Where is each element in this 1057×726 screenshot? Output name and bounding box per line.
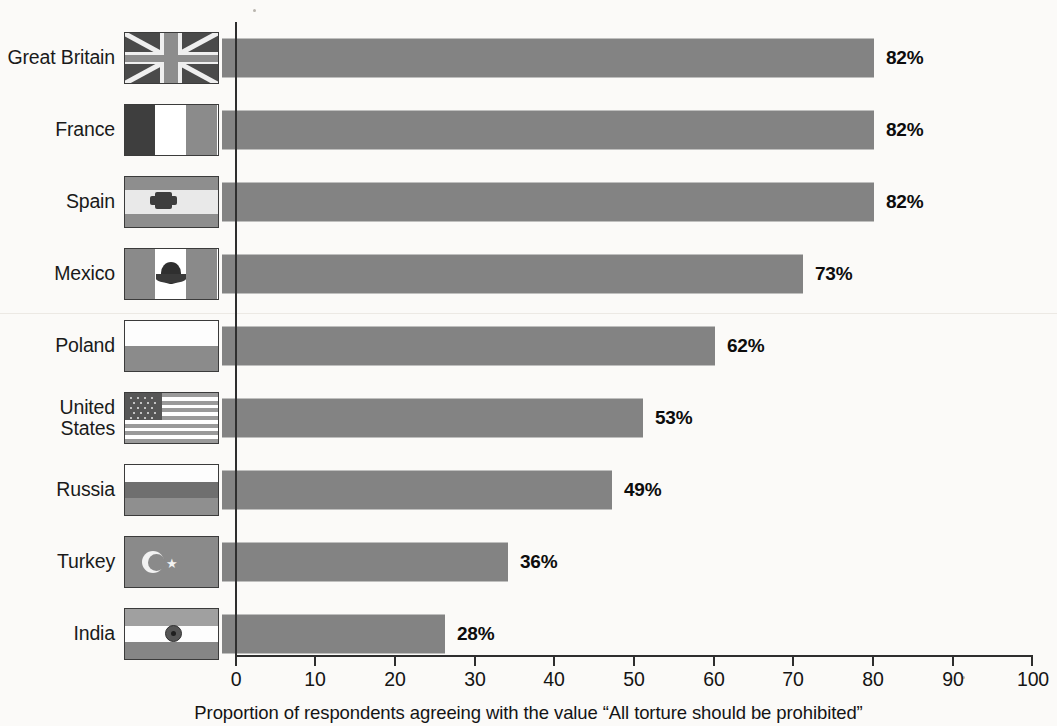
chart-rows: Great Britain 82% France	[0, 0, 1057, 655]
x-axis-tick-label: 70	[782, 668, 803, 691]
bar	[222, 543, 508, 582]
bar-value-label: 49%	[624, 479, 661, 501]
russia-flag	[124, 464, 219, 516]
bar	[222, 615, 445, 654]
united-states-flag	[124, 392, 219, 444]
category-label: Russia	[0, 479, 121, 500]
bar	[222, 183, 874, 222]
table-row: Poland 62%	[0, 309, 1057, 383]
x-axis-tick	[553, 655, 555, 666]
table-row: India 28%	[0, 597, 1057, 671]
bar	[222, 471, 612, 510]
flag-cell	[121, 320, 221, 372]
india-flag	[124, 608, 219, 660]
x-axis-tick	[952, 655, 954, 666]
x-axis-tick-label: 90	[942, 668, 963, 691]
category-label: Mexico	[0, 263, 121, 284]
flag-cell	[121, 32, 221, 84]
spain-coat-of-arms-icon	[155, 192, 172, 209]
x-axis-tick-label: 60	[703, 668, 724, 691]
bar-cell: 82%	[221, 165, 1057, 239]
bar	[222, 39, 874, 78]
table-row: Mexico 73%	[0, 237, 1057, 311]
turkey-flag: ★	[124, 536, 219, 588]
bar-value-label: 82%	[886, 119, 923, 141]
x-axis-tick-label: 100	[1017, 668, 1049, 691]
category-label: Great Britain	[0, 47, 121, 68]
flag-cell: ★	[121, 536, 221, 588]
bar-cell: 62%	[221, 309, 1057, 383]
bar-value-label: 62%	[727, 335, 764, 357]
bar-cell: 36%	[221, 525, 1057, 599]
category-label: Spain	[0, 191, 121, 212]
category-label: France	[0, 119, 121, 140]
bar-value-label: 82%	[886, 47, 923, 69]
x-axis-tick	[474, 655, 476, 666]
flag-cell	[121, 104, 221, 156]
flag-cell	[121, 392, 221, 444]
x-axis-caption: Proportion of respondents agreeing with …	[0, 702, 1057, 724]
ashoka-chakra-icon	[165, 625, 182, 642]
flag-cell	[121, 464, 221, 516]
y-axis-line	[235, 22, 237, 656]
bar	[222, 399, 643, 438]
bar-cell: 53%	[221, 381, 1057, 455]
bar-value-label: 82%	[886, 191, 923, 213]
bar	[222, 327, 715, 366]
flag-cell	[121, 608, 221, 660]
bar-value-label: 53%	[655, 407, 692, 429]
mexico-flag	[124, 248, 219, 300]
bar-cell: 82%	[221, 21, 1057, 95]
x-axis-tick	[872, 655, 874, 666]
x-axis-tick	[713, 655, 715, 666]
x-axis-tick-label: 50	[623, 668, 644, 691]
bar	[222, 255, 803, 294]
x-axis-tick-label: 0	[231, 668, 242, 691]
bar-value-label: 36%	[520, 551, 557, 573]
table-row: Turkey ★ 36%	[0, 525, 1057, 599]
great-britain-flag	[124, 32, 219, 84]
table-row: Russia 49%	[0, 453, 1057, 527]
x-axis-tick-label: 80	[862, 668, 883, 691]
x-axis-tick	[1031, 655, 1033, 666]
bar-value-label: 28%	[457, 623, 494, 645]
bar	[222, 111, 874, 150]
france-flag	[124, 104, 219, 156]
bar-chart: Great Britain 82% France	[0, 0, 1057, 726]
bar-cell: 73%	[221, 237, 1057, 311]
bar-value-label: 73%	[815, 263, 852, 285]
flag-cell	[121, 176, 221, 228]
bar-cell: 28%	[221, 597, 1057, 671]
bar-cell: 49%	[221, 453, 1057, 527]
star-icon: ★	[166, 557, 178, 570]
x-axis-tick	[314, 655, 316, 666]
category-label: Poland	[0, 335, 121, 356]
x-axis-tick	[792, 655, 794, 666]
spain-flag	[124, 176, 219, 228]
table-row: France 82%	[0, 93, 1057, 167]
x-axis-tick-label: 30	[464, 668, 485, 691]
x-axis-tick	[235, 655, 237, 666]
bar-cell: 82%	[221, 93, 1057, 167]
category-label: Turkey	[0, 551, 121, 572]
table-row: United States	[0, 381, 1057, 455]
flag-cell	[121, 248, 221, 300]
category-label: India	[0, 623, 121, 644]
mexico-eagle-icon	[161, 262, 181, 284]
table-row: Great Britain 82%	[0, 21, 1057, 95]
x-axis-tick	[633, 655, 635, 666]
category-label: United States	[0, 397, 121, 439]
x-axis-tick	[394, 655, 396, 666]
x-axis-tick-label: 10	[304, 668, 325, 691]
table-row: Spain 82%	[0, 165, 1057, 239]
poland-flag	[124, 320, 219, 372]
x-axis-tick-label: 40	[543, 668, 564, 691]
x-axis-tick-label: 20	[384, 668, 405, 691]
